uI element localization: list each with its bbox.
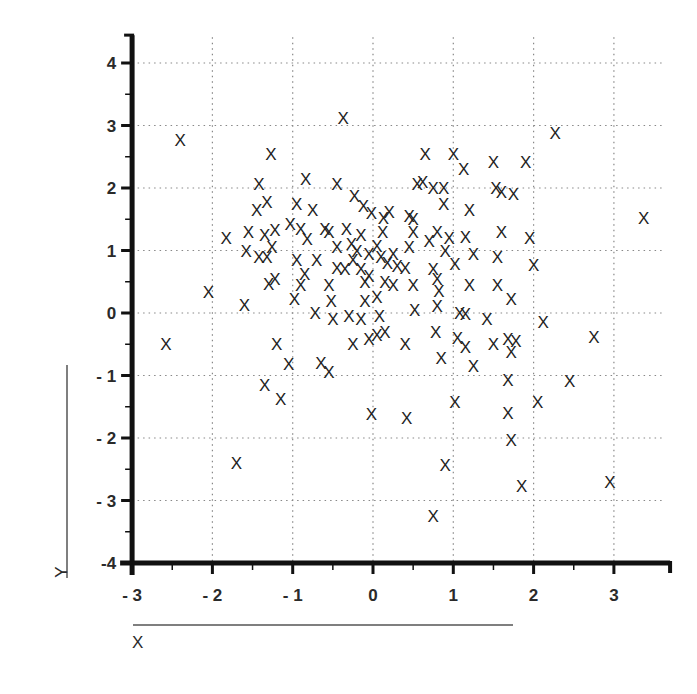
data-point: X xyxy=(275,390,286,409)
data-point: X xyxy=(259,376,270,395)
data-point: X xyxy=(424,232,435,251)
y-tick-label: 0 xyxy=(107,304,116,323)
x-tick-label: - 2 xyxy=(202,586,222,605)
data-point: X xyxy=(366,405,377,424)
data-point: X xyxy=(240,242,251,261)
data-point: X xyxy=(363,245,374,264)
data-point: X xyxy=(492,276,503,295)
data-point: X xyxy=(468,357,479,376)
y-tick-label: 2 xyxy=(107,179,116,198)
data-point: X xyxy=(520,153,531,172)
x-tick-label: - 1 xyxy=(283,586,303,605)
data-point: X xyxy=(502,404,513,423)
data-point: X xyxy=(363,267,374,286)
data-point: X xyxy=(505,431,516,450)
data-point: X xyxy=(261,248,272,267)
data-point: X xyxy=(263,275,274,294)
data-point: X xyxy=(343,307,354,326)
data-point: X xyxy=(307,201,318,220)
data-point: X xyxy=(371,326,382,345)
data-point: X xyxy=(327,310,338,329)
data-points: XXXXXXXXXXXXXXXXXXXXXXXXXXXXXXXXXXXXXXXX… xyxy=(160,109,649,526)
data-point: X xyxy=(403,207,414,226)
data-point: X xyxy=(283,355,294,374)
data-point: X xyxy=(438,195,449,214)
data-point: X xyxy=(510,332,521,351)
data-point: X xyxy=(460,338,471,357)
data-point: X xyxy=(464,276,475,295)
data-point: X xyxy=(323,363,334,382)
data-point: X xyxy=(449,393,460,412)
data-point: X xyxy=(269,221,280,240)
data-point: X xyxy=(468,245,479,264)
x-tick-label: 1 xyxy=(449,586,458,605)
data-point: X xyxy=(231,454,242,473)
data-point: X xyxy=(300,170,311,189)
data-point: X xyxy=(387,276,398,295)
data-point: X xyxy=(175,131,186,150)
data-point: X xyxy=(409,301,420,320)
data-point: X xyxy=(261,193,272,212)
data-point: X xyxy=(407,276,418,295)
data-point: X xyxy=(460,305,471,324)
data-point: X xyxy=(420,145,431,164)
y-tick-label: - 2 xyxy=(96,429,116,448)
data-point: X xyxy=(496,183,507,202)
data-point: X xyxy=(532,393,543,412)
data-point: X xyxy=(508,185,519,204)
data-point: X xyxy=(464,201,475,220)
data-point: X xyxy=(492,248,503,267)
data-point: X xyxy=(355,226,366,245)
data-point: X xyxy=(496,223,507,242)
data-point: X xyxy=(359,292,370,311)
data-point: X xyxy=(331,238,342,257)
data-point: X xyxy=(243,223,254,242)
data-point: X xyxy=(481,310,492,329)
y-tick-label: - 3 xyxy=(96,492,116,511)
data-point: X xyxy=(564,372,575,391)
data-point: X xyxy=(310,304,321,323)
y-tick-label: 3 xyxy=(107,117,116,136)
data-point: X xyxy=(371,288,382,307)
x-axis-title: X xyxy=(132,633,143,652)
y-axis-title: Y xyxy=(52,566,71,577)
data-point: X xyxy=(271,335,282,354)
data-point: X xyxy=(428,507,439,526)
x-tick-label: 3 xyxy=(609,586,618,605)
data-point: X xyxy=(488,153,499,172)
y-tick-label: -4 xyxy=(101,554,117,573)
data-point: X xyxy=(265,145,276,164)
data-point: X xyxy=(432,297,443,316)
data-point: X xyxy=(331,175,342,194)
data-point: X xyxy=(550,124,561,143)
data-point: X xyxy=(436,349,447,368)
data-point: X xyxy=(638,209,649,228)
data-point: X xyxy=(338,109,349,128)
scatter-chart: XXXXXXXXXXXXXXXXXXXXXXXXXXXXXXXXXXXXXXXX… xyxy=(0,0,697,694)
data-point: X xyxy=(301,230,312,249)
data-point: X xyxy=(383,203,394,222)
data-point: X xyxy=(505,290,516,309)
y-tick-label: 1 xyxy=(107,242,116,261)
data-point: X xyxy=(604,473,615,492)
x-tick-label: - 3 xyxy=(122,586,142,605)
axes xyxy=(120,35,670,575)
data-point: X xyxy=(251,201,262,220)
data-point: X xyxy=(488,335,499,354)
data-point: X xyxy=(366,204,377,223)
data-point: X xyxy=(401,409,412,428)
data-point: X xyxy=(430,323,441,342)
x-tick-label: 0 xyxy=(368,586,377,605)
data-point: X xyxy=(220,229,231,248)
x-tick-label: 2 xyxy=(529,586,538,605)
data-point: X xyxy=(449,255,460,274)
data-point: X xyxy=(377,223,388,242)
data-point: X xyxy=(538,313,549,332)
data-point: X xyxy=(253,175,264,194)
data-point: X xyxy=(326,292,337,311)
data-point: X xyxy=(528,256,539,275)
data-point: X xyxy=(440,456,451,475)
data-point: X xyxy=(502,371,513,390)
data-point: X xyxy=(203,283,214,302)
data-point: X xyxy=(289,290,300,309)
